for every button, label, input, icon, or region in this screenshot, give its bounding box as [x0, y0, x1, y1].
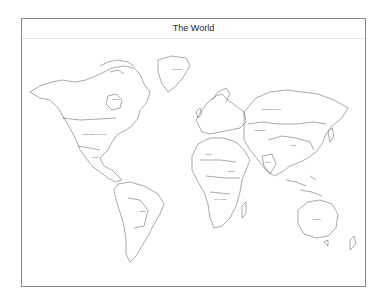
label-algeria: Algeria: [205, 153, 213, 155]
label-brazil: Brazil: [140, 210, 146, 212]
africa-borders: [200, 160, 240, 194]
uk-ireland: [196, 108, 202, 118]
label-sudan: Sudan: [228, 170, 235, 172]
china-border: [268, 136, 314, 150]
canada-usa-border: [62, 118, 116, 120]
southeast-asia-islands: [286, 176, 322, 196]
label-india: India: [265, 161, 271, 163]
label-russia: Russian Federation: [262, 108, 282, 110]
label-dr-congo: D.R. Congo: [215, 198, 227, 200]
new-zealand: [350, 236, 356, 250]
greenland-outline: [158, 56, 190, 92]
label-canada: Canada: [112, 98, 120, 100]
label-china: China: [290, 144, 296, 146]
south-america-outline: [114, 182, 164, 262]
world-map: Greenland Canada United States of Americ…: [0, 0, 386, 303]
asia-outline: [244, 90, 348, 176]
russia-border: [248, 122, 326, 124]
madagascar: [242, 202, 246, 218]
africa-outline: [192, 138, 250, 228]
brazil-border: [128, 198, 148, 228]
europe-outline: [196, 94, 246, 134]
hudson-bay: [106, 94, 122, 110]
usa-mexico-border: [78, 146, 100, 150]
label-australia: Australia: [312, 218, 321, 220]
scandinavia: [212, 88, 230, 102]
india-outline: [262, 154, 276, 174]
label-kazakhstan: Kazakhstan: [254, 129, 266, 131]
label-greenland: Greenland: [172, 68, 183, 70]
label-usa: United States of America: [82, 133, 107, 135]
tasmania: [324, 240, 328, 246]
north-america-outline: [30, 66, 150, 182]
label-mexico: Mexico: [92, 156, 100, 158]
country-labels: Greenland Canada United States of Americ…: [82, 68, 321, 220]
